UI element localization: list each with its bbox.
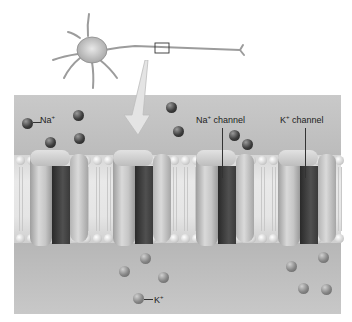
lipid-tail <box>22 167 23 231</box>
magnify-arrow-icon <box>118 60 158 140</box>
lipid-head <box>170 156 179 165</box>
lipid-head <box>16 156 25 165</box>
potassium-ion <box>158 272 169 283</box>
potassium-ion <box>318 252 329 263</box>
lipid-tail <box>184 167 185 231</box>
potassium-ion <box>140 253 151 264</box>
k-channel <box>278 150 336 246</box>
na-channel-2 <box>113 150 171 246</box>
lipid-head <box>335 234 344 243</box>
k-ion-label: K+ <box>154 294 164 305</box>
lipid-tail <box>176 167 177 231</box>
sodium-ion <box>73 110 84 121</box>
channel-top <box>278 150 318 166</box>
na-channel-leader <box>222 128 223 178</box>
na-channel-1 <box>30 150 88 246</box>
channel-pore <box>135 166 153 244</box>
channel-right <box>318 154 336 242</box>
lipid-head <box>181 156 190 165</box>
lipid-head <box>93 234 102 243</box>
neuron-illustration <box>0 0 352 100</box>
potassium-ion <box>321 284 332 295</box>
lipid-tail <box>341 167 342 231</box>
k-channel-label: K+ channel <box>280 114 324 125</box>
lipid-head <box>269 156 278 165</box>
sodium-ion <box>22 118 33 129</box>
channel-top <box>30 150 70 166</box>
na-ion-leader <box>33 122 41 123</box>
sodium-ion <box>173 126 184 137</box>
lipid-head <box>93 156 102 165</box>
lipid-head <box>170 234 179 243</box>
channel-pore <box>218 166 236 244</box>
channel-top <box>196 150 236 166</box>
lipid-tail <box>110 167 111 231</box>
lipid-head <box>181 234 190 243</box>
k-ion-leader <box>144 299 153 300</box>
lipid-head <box>258 156 267 165</box>
lipid-tail <box>275 167 276 231</box>
lipid-head <box>16 234 25 243</box>
lipid-tail <box>338 167 339 231</box>
potassium-ion <box>133 293 144 304</box>
lipid-head <box>104 156 113 165</box>
na-channel-3 <box>196 150 254 246</box>
channel-top <box>113 150 153 166</box>
channel-right <box>153 154 171 242</box>
channel-pore <box>300 166 318 244</box>
na-ion-label: Na+ <box>40 114 55 125</box>
lipid-tail <box>261 167 262 231</box>
lipid-tail <box>272 167 273 231</box>
k-channel-leader <box>305 128 306 178</box>
potassium-ion <box>286 261 297 272</box>
lipid-head <box>269 234 278 243</box>
lipid-tail <box>173 167 174 231</box>
channel-pore <box>52 166 70 244</box>
sodium-ion <box>166 102 177 113</box>
lipid-tail <box>96 167 97 231</box>
sodium-ion <box>74 133 85 144</box>
channel-right <box>70 154 88 242</box>
lipid-tail <box>187 167 188 231</box>
sodium-ion <box>229 130 240 141</box>
potassium-ion <box>298 283 309 294</box>
lipid-head <box>335 156 344 165</box>
na-channel-label: Na+ channel <box>196 114 245 125</box>
sodium-ion <box>45 137 56 148</box>
lipid-head <box>104 234 113 243</box>
lipid-head <box>258 234 267 243</box>
lipid-tail <box>107 167 108 231</box>
lipid-tail <box>19 167 20 231</box>
potassium-ion <box>119 266 130 277</box>
lipid-tail <box>88 167 89 231</box>
channel-right <box>236 154 254 242</box>
lipid-tail <box>264 167 265 231</box>
sodium-ion <box>242 139 253 150</box>
lipid-tail <box>99 167 100 231</box>
